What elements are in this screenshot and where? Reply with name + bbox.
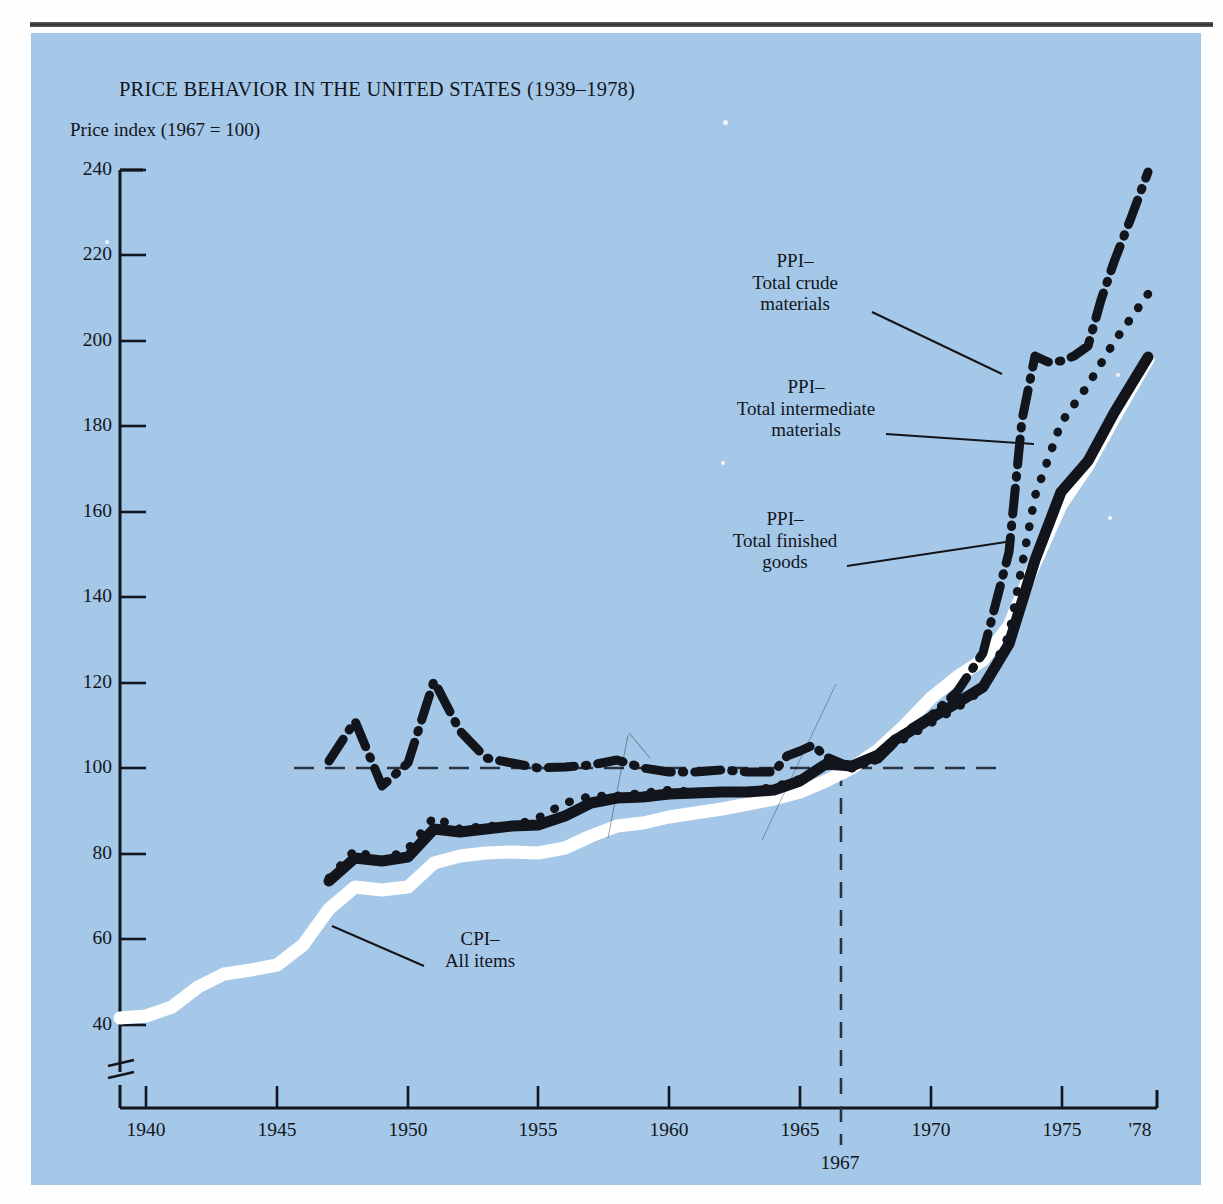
x-tick-label: 1970	[891, 1119, 971, 1141]
y-tick-label: 40	[52, 1013, 112, 1035]
x-tick-label: 1945	[237, 1119, 317, 1141]
x-tick-label: 1960	[629, 1119, 709, 1141]
ppi-finished-goods-label: PPI– Total finished goods	[690, 508, 880, 573]
y-tick-label: 140	[52, 585, 112, 607]
y-tick-label: 160	[52, 500, 112, 522]
chart-svg	[0, 0, 1223, 1204]
x-tick-label: 1965	[760, 1119, 840, 1141]
figure-page: PRICE BEHAVIOR IN THE UNITED STATES (193…	[0, 0, 1223, 1204]
cpi-all-items-label: CPI– All items	[400, 928, 560, 971]
x-tick-label: 1975	[1022, 1119, 1102, 1141]
series-cpi-all-items	[120, 359, 1148, 1018]
chart-plot-area: 240 220 200 180 160 140 120 100 80 60 40…	[0, 0, 1223, 1204]
x-tick-label: 1940	[106, 1119, 186, 1141]
y-tick-label: 200	[52, 329, 112, 351]
leader-ppi-crude	[872, 312, 1002, 374]
y-axis-ticks	[120, 170, 146, 1025]
y-tick-label: 120	[52, 671, 112, 693]
y-tick-label: 100	[52, 756, 112, 778]
x-tick-label: '78	[1100, 1119, 1180, 1141]
y-tick-label: 180	[52, 414, 112, 436]
plate-scratch	[629, 733, 650, 758]
base-year-label: 1967	[800, 1152, 880, 1174]
y-tick-label: 240	[52, 158, 112, 180]
ppi-intermediate-materials-label: PPI– Total intermediate materials	[690, 376, 922, 441]
x-axis-ticks	[146, 1086, 1062, 1108]
y-tick-label: 60	[52, 927, 112, 949]
y-tick-label: 80	[52, 842, 112, 864]
y-tick-label: 220	[52, 243, 112, 265]
x-tick-label: 1950	[368, 1119, 448, 1141]
ppi-crude-materials-label: PPI– Total crude materials	[700, 250, 890, 315]
x-tick-label: 1955	[498, 1119, 578, 1141]
